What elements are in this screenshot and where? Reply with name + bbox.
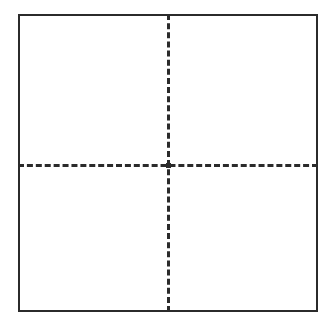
crosshair-intersection — [166, 163, 171, 168]
outer-square-border — [18, 14, 318, 312]
quadrant-bottom-left[interactable] — [20, 166, 168, 310]
quadrant-top-right[interactable] — [168, 16, 316, 166]
quadrant-top-left[interactable] — [20, 16, 168, 166]
quadrant-bottom-right[interactable] — [168, 166, 316, 310]
figure-canvas — [0, 0, 336, 323]
quadrant-inner-area — [20, 16, 316, 310]
